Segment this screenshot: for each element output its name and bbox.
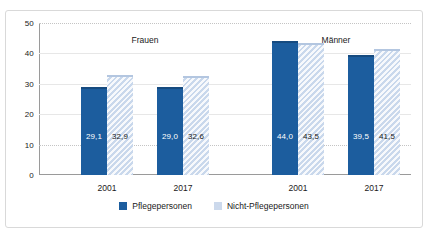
legend-item[interactable]: Nicht-Pflegepersonen: [214, 201, 309, 211]
x-axis-tick-label: 2001: [289, 183, 308, 193]
y-axis-tick-label: 40: [25, 49, 34, 58]
plot-area: 50403020100 29,132,929,032,644,043,539,5…: [39, 23, 411, 175]
bar: 32,6: [183, 76, 209, 175]
group-label: Männer: [322, 35, 351, 45]
bar-value-label: 43,5: [298, 132, 324, 141]
legend-label: Pflegepersonen: [132, 201, 192, 211]
bar: 29,1: [81, 87, 107, 175]
x-axis-tick-label: 2017: [174, 183, 193, 193]
legend-label: Nicht-Pflegepersonen: [227, 201, 309, 211]
bar: 43,5: [298, 43, 324, 175]
y-axis-tick-label: 50: [25, 19, 34, 28]
bar-value-label: 44,0: [272, 132, 298, 141]
chart-card: 50403020100 29,132,929,032,644,043,539,5…: [5, 10, 423, 228]
bar: 39,5: [348, 55, 374, 175]
y-axis-tick-label: 10: [25, 140, 34, 149]
bar: 44,0: [272, 41, 298, 175]
bar-value-label: 29,1: [81, 132, 107, 141]
x-axis-tick-label: 2017: [365, 183, 384, 193]
group-label: Frauen: [132, 35, 159, 45]
bar: 29,0: [157, 87, 183, 175]
chart-legend: PflegepersonenNicht-Pflegepersonen: [6, 201, 422, 211]
x-axis-tick-label: 2001: [98, 183, 117, 193]
bar-value-label: 39,5: [348, 132, 374, 141]
legend-swatch-icon: [214, 202, 222, 210]
legend-item[interactable]: Pflegepersonen: [119, 201, 192, 211]
bar-value-label: 29,0: [157, 132, 183, 141]
y-axis-tick-label: 30: [25, 79, 34, 88]
bar-value-label: 41,5: [374, 132, 400, 141]
legend-swatch-icon: [119, 202, 127, 210]
bar-value-label: 32,6: [183, 132, 209, 141]
gridline: [39, 23, 411, 24]
y-axis-tick-label: 0: [29, 171, 34, 180]
bar: 32,9: [107, 75, 133, 175]
y-axis-tick-label: 20: [25, 110, 34, 119]
bar: 41,5: [374, 49, 400, 175]
bar-value-label: 32,9: [107, 132, 133, 141]
